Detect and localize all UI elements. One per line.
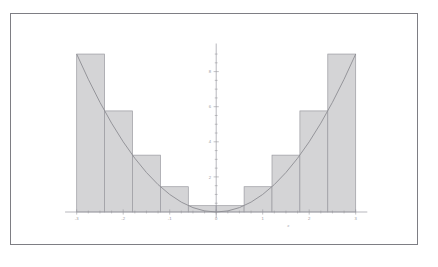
x-axis-label: x — [286, 223, 290, 228]
figure-root: -3-2-10123 2468 x — [0, 0, 438, 267]
x-tick-label: 3 — [355, 216, 358, 221]
riemann-bar — [77, 54, 105, 212]
y-tick-label: 8 — [209, 69, 212, 74]
x-tick-label: 0 — [215, 216, 218, 221]
y-tick-label: 6 — [209, 104, 212, 109]
x-tick-label: 2 — [308, 216, 311, 221]
x-tick-label: -3 — [75, 216, 79, 221]
y-tick-labels-group: 2468 — [209, 69, 212, 179]
x-tick-label: 1 — [262, 216, 265, 221]
riemann-bar — [272, 155, 300, 212]
riemann-bar — [300, 111, 328, 212]
riemann-bar — [133, 155, 161, 212]
y-tick-label: 2 — [209, 175, 212, 180]
riemann-bar — [216, 206, 244, 212]
riemann-bar — [105, 111, 133, 212]
x-tick-label: -2 — [121, 216, 125, 221]
plot-canvas: -3-2-10123 2468 x — [0, 0, 438, 267]
riemann-bar — [188, 206, 216, 212]
y-tick-label: 4 — [209, 139, 212, 144]
x-tick-label: -1 — [168, 216, 172, 221]
x-tick-labels-group: -3-2-10123 — [75, 216, 358, 221]
riemann-bar — [328, 54, 356, 212]
